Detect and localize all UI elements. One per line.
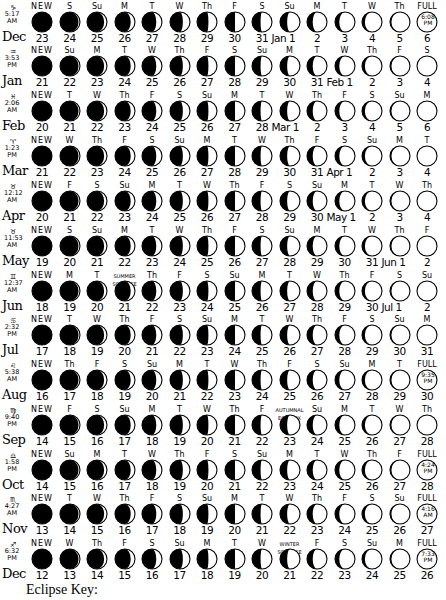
day-cell: Th23: [83, 138, 111, 181]
moon-phase-icon: [334, 414, 356, 436]
day-cell: W26: [276, 317, 304, 360]
day-cell: W25: [331, 452, 359, 495]
day-cell: Su23: [193, 317, 221, 360]
date-label: 18: [83, 391, 111, 402]
weekday-label: Th: [248, 361, 276, 369]
weekday-label: FULL: [413, 540, 441, 548]
full-moon-icon: [416, 414, 438, 436]
day-cell: T19: [166, 407, 194, 450]
date-label: 26: [166, 167, 194, 178]
weekday-label: Th: [138, 272, 166, 280]
weekday-label: Th: [303, 495, 331, 503]
month-label: May: [2, 253, 29, 268]
moon-phase-icon: [196, 414, 218, 436]
weekday-label: F: [331, 495, 359, 503]
new-moon-time: 11:53AM: [4, 235, 20, 248]
date-label: 28: [413, 481, 441, 492]
weekday-label: S: [56, 227, 84, 235]
moon-phase-icon: [86, 414, 108, 436]
date-label: 29: [386, 391, 414, 402]
month-row-jan: ♒3:53PMJanNEW21Su22M23T24W25Th26F27S28Su…: [0, 48, 446, 91]
weekday-label: S: [166, 316, 194, 324]
weekday-label: M: [138, 406, 166, 414]
day-cell: Th4: [413, 183, 441, 226]
date-label: 16: [111, 525, 139, 536]
date-label: 2: [358, 212, 386, 223]
day-cell: F26: [221, 228, 249, 271]
day-cell: M19: [56, 273, 84, 316]
moon-phase-icon: [59, 145, 81, 167]
date-label: 17: [138, 525, 166, 536]
date-label: 21: [248, 525, 276, 536]
new-moon-icon: [31, 324, 53, 346]
weekday-label: Th: [303, 316, 331, 324]
new-moon-time: 9:40PM: [4, 414, 20, 427]
day-cell: Su26: [166, 138, 194, 181]
day-cell: W26: [193, 183, 221, 226]
date-label: 22: [56, 167, 84, 178]
date-label: 3: [386, 167, 414, 178]
weekday-label: F: [138, 92, 166, 100]
date-label: 25: [166, 212, 194, 223]
moon-phase-icon: [86, 324, 108, 346]
day-cell: Th25: [193, 228, 221, 271]
new-moon-icon: [31, 11, 53, 33]
date-label: 28: [303, 302, 331, 313]
date-label: 24: [138, 212, 166, 223]
day-cell: WINTER SOLSTICE21: [276, 541, 304, 584]
moon-phase-icon: [279, 55, 301, 77]
weekday-label: S: [358, 92, 386, 100]
weekday-label: F: [193, 451, 221, 459]
moon-phase-icon: [279, 145, 301, 167]
date-label: 18: [138, 481, 166, 492]
date-label: 4: [413, 167, 441, 178]
moon-phase-icon: [114, 503, 136, 525]
weekday-label: T: [358, 182, 386, 190]
day-cell: S20: [56, 228, 84, 271]
full-moon-icon: [416, 190, 438, 212]
moon-phase-icon: [141, 324, 163, 346]
date-label: 19: [28, 257, 56, 268]
weekday-label: Su: [166, 540, 194, 548]
date-label: 17: [56, 391, 84, 402]
moon-phase-icon: [114, 369, 136, 391]
date-label: 31: [413, 346, 441, 357]
date-label: 22: [138, 302, 166, 313]
weekday-label: F: [248, 406, 276, 414]
moon-phase-icon: [224, 369, 246, 391]
weekday-label: FULL: [413, 495, 441, 503]
day-cell: W18: [138, 452, 166, 495]
moon-phase-icon: [279, 235, 301, 257]
month-label: Dec: [2, 29, 26, 44]
date-label: 28: [413, 436, 441, 447]
day-cell: W28: [303, 273, 331, 316]
moon-phase-icon: [141, 190, 163, 212]
day-cell: Su25: [221, 273, 249, 316]
moon-phase-icon: [389, 280, 411, 302]
date-label: 6: [413, 122, 441, 133]
date-label: 26: [111, 33, 139, 44]
day-cell: Th29: [193, 4, 221, 47]
weekday-label: S: [413, 47, 441, 55]
weekday-label: Th: [111, 92, 139, 100]
date-label: 23: [166, 302, 194, 313]
day-cell: Th19: [166, 452, 194, 495]
day-cell: Su17: [111, 407, 139, 450]
moon-phase-icon: [86, 280, 108, 302]
date-label: 19: [111, 391, 139, 402]
weekday-label: Su: [248, 47, 276, 55]
weekday-label: T: [358, 406, 386, 414]
weekday-label: Th: [413, 182, 441, 190]
moon-phase-icon: [389, 548, 411, 570]
weekday-label: W: [83, 316, 111, 324]
date-label: 24: [166, 257, 194, 268]
moon-phase-icon: [86, 100, 108, 122]
weekday-label: Su: [413, 272, 441, 280]
weekday-label: T: [193, 361, 221, 369]
month-label: Jun: [2, 298, 22, 313]
day-cell: W22: [276, 496, 304, 539]
day-cell: F23: [166, 273, 194, 316]
weekday-label: S: [56, 3, 84, 11]
date-label: 14: [28, 436, 56, 447]
moon-phase-icon: [141, 145, 163, 167]
